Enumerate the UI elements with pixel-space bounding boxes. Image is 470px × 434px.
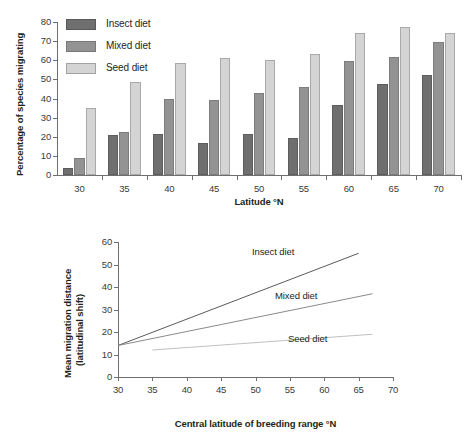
line-chart: Mean migration distance (latitudinal shi… — [0, 228, 470, 434]
bar-chart-bar — [198, 143, 208, 176]
bar-chart-y-tick-label: 10 — [25, 151, 51, 160]
bar-chart-x-axis-line — [57, 175, 461, 176]
bar-chart-bar — [265, 60, 275, 175]
line-chart-x-tick — [118, 377, 119, 381]
line-chart-x-tick — [324, 377, 325, 381]
bar-chart-y-axis-title: Percentage of species migrating — [14, 33, 25, 176]
line-label-mixed-diet: Mixed diet — [275, 290, 317, 301]
line-chart-y-axis-title-line2: (latitudinal shift) — [74, 294, 85, 366]
bar-chart-x-tick — [237, 175, 238, 180]
bar-chart-y-tick-label: 70 — [25, 36, 51, 45]
line-chart-series-line — [118, 294, 372, 346]
bar-chart-x-tick — [326, 175, 327, 180]
line-chart-y-tick-label: 30 — [86, 305, 112, 314]
bar-chart-y-tick-label: 40 — [25, 94, 51, 103]
bar-chart-bar — [400, 27, 410, 175]
bar-chart-x-tick-label: 65 — [374, 184, 414, 193]
line-chart-x-tick — [221, 377, 222, 381]
bar-chart-bar — [175, 63, 185, 175]
bar-chart-bar — [243, 134, 253, 175]
bar-chart: Percentage of species migrating Latitude… — [0, 0, 470, 218]
line-label-insect-diet: Insect diet — [252, 246, 294, 257]
line-chart-series-line — [118, 253, 359, 345]
bar-chart-x-tick-label: 35 — [104, 184, 144, 193]
bar-chart-bar — [254, 93, 264, 175]
bar-chart-x-tick-label: 55 — [284, 184, 324, 193]
legend-label-mixed-diet: Mixed diet — [106, 40, 151, 51]
bar-chart-bar — [74, 158, 84, 175]
bar-chart-x-tick — [461, 175, 462, 180]
bar-chart-y-tick-label: 30 — [25, 113, 51, 122]
line-chart-series-svg — [118, 242, 393, 377]
bar-chart-bar — [355, 33, 365, 175]
line-label-seed-diet: Seed diet — [288, 333, 327, 344]
bar-chart-bar — [220, 58, 230, 175]
bar-chart-x-tick — [192, 175, 193, 180]
legend-label-insect-diet: Insect diet — [106, 18, 150, 29]
bar-chart-x-tick-label: 30 — [59, 184, 99, 193]
bar-chart-bar — [310, 54, 320, 175]
line-chart-x-axis-title: Central latitude of breeding range °N — [93, 418, 418, 429]
legend-swatch-insect-diet — [66, 19, 96, 30]
bar-chart-x-tick — [416, 175, 417, 180]
bar-chart-y-tick-label: 0 — [25, 170, 51, 179]
line-chart-plot-area — [118, 242, 393, 377]
bar-chart-bar — [389, 57, 399, 175]
bar-chart-bar — [153, 134, 163, 175]
bar-chart-bar — [332, 105, 342, 175]
bar-chart-bar — [344, 61, 354, 175]
bar-chart-x-tick-label: 70 — [419, 184, 459, 193]
line-chart-y-tick-label: 0 — [86, 372, 112, 381]
bar-chart-bar — [445, 33, 455, 175]
bar-chart-bar — [288, 138, 298, 175]
line-chart-y-tick-label: 50 — [86, 260, 112, 269]
bar-chart-bar — [63, 168, 73, 175]
bar-chart-bar — [433, 42, 443, 175]
line-chart-y-axis-title-line1: Mean migration distance — [62, 269, 73, 378]
bar-chart-bar — [130, 82, 140, 175]
bar-chart-y-tick-label: 50 — [25, 74, 51, 83]
bar-chart-x-tick-label: 40 — [149, 184, 189, 193]
bar-chart-bar — [209, 100, 219, 175]
legend-swatch-seed-diet — [66, 63, 96, 74]
bar-chart-bar — [164, 99, 174, 176]
legend-label-seed-diet: Seed diet — [106, 62, 147, 73]
bar-chart-bar — [422, 75, 432, 175]
bar-chart-bar — [377, 84, 387, 175]
bar-chart-x-tick — [281, 175, 282, 180]
bar-chart-x-axis-title: Latitude °N — [57, 196, 461, 207]
bar-chart-bar — [86, 108, 96, 175]
line-chart-y-tick-label: 40 — [86, 282, 112, 291]
line-chart-x-tick — [359, 377, 360, 381]
bar-chart-bar — [299, 87, 309, 175]
bar-chart-bar — [108, 135, 118, 175]
bar-chart-y-tick-label: 60 — [25, 55, 51, 64]
line-chart-x-tick — [393, 377, 394, 381]
bar-chart-x-tick — [147, 175, 148, 180]
legend-swatch-mixed-diet — [66, 41, 96, 52]
bar-chart-y-tick-label: 20 — [25, 132, 51, 141]
line-chart-x-tick — [290, 377, 291, 381]
line-chart-x-tick — [187, 377, 188, 381]
line-chart-y-tick-label: 60 — [86, 237, 112, 246]
bar-chart-x-tick — [371, 175, 372, 180]
line-chart-series-line — [152, 334, 372, 350]
line-chart-y-tick-label: 20 — [86, 327, 112, 336]
bar-chart-bar — [119, 132, 129, 175]
line-chart-x-tick — [256, 377, 257, 381]
bar-chart-x-tick-label: 45 — [194, 184, 234, 193]
bar-chart-x-tick — [102, 175, 103, 180]
bar-chart-x-tick-label: 50 — [239, 184, 279, 193]
line-chart-x-tick — [152, 377, 153, 381]
bar-chart-y-tick-label: 80 — [25, 17, 51, 26]
bar-chart-x-tick-label: 60 — [329, 184, 369, 193]
line-chart-x-tick-label: 70 — [373, 385, 413, 394]
line-chart-y-tick-label: 10 — [86, 350, 112, 359]
